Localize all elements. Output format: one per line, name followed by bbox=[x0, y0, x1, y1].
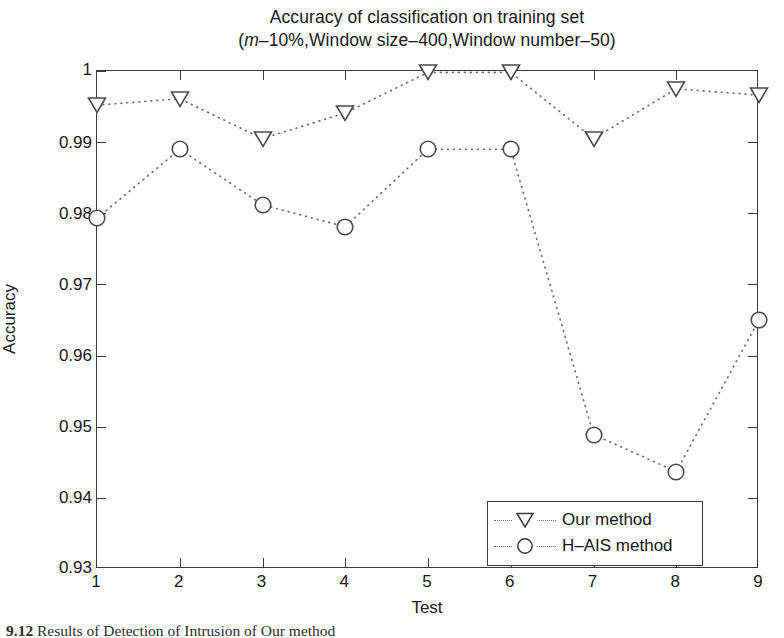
figure-caption-text: Results of Detection of Intrusion of Our… bbox=[37, 622, 335, 638]
series-0-line bbox=[97, 72, 759, 138]
data-point-triangle-down-icon bbox=[335, 103, 356, 122]
data-point-triangle-down-icon bbox=[169, 89, 190, 108]
ytick-label-1: 0.94 bbox=[59, 488, 92, 508]
y-axis-label: Accuracy bbox=[0, 284, 20, 354]
plot-inner: Our method H–AIS method bbox=[97, 71, 757, 567]
xtick-label-2: 2 bbox=[174, 572, 183, 592]
xtick-label-7: 7 bbox=[588, 572, 597, 592]
chart-legend: Our method H–AIS method bbox=[487, 501, 703, 566]
xtick-label-5: 5 bbox=[422, 572, 431, 592]
xtick-label-9: 9 bbox=[753, 572, 762, 592]
data-point-triangle-down-icon bbox=[500, 63, 521, 82]
legend-item-our-method[interactable]: Our method bbox=[488, 507, 702, 533]
data-point-triangle-down-icon bbox=[666, 79, 687, 98]
data-point-circle-icon bbox=[501, 139, 521, 159]
chart-subtitle-params: –10%,Window size–400,Window number–50) bbox=[259, 30, 616, 50]
figure-caption: 9.12 Results of Detection of Intrusion o… bbox=[6, 622, 778, 638]
data-point-circle-icon bbox=[749, 310, 769, 330]
xtick-label-1: 1 bbox=[91, 572, 100, 592]
xtick-label-3: 3 bbox=[257, 572, 266, 592]
figure-accuracy-training-set: Accuracy of classification on training s… bbox=[0, 0, 784, 638]
data-point-triangle-down-icon bbox=[749, 86, 770, 105]
xtick-label-8: 8 bbox=[671, 572, 680, 592]
legend-item-hais-method[interactable]: H–AIS method bbox=[488, 533, 702, 559]
ytick-label-3: 0.96 bbox=[59, 346, 92, 366]
data-point-triangle-down-icon bbox=[583, 129, 604, 148]
data-point-circle-icon bbox=[335, 217, 355, 237]
chart-title-block: Accuracy of classification on training s… bbox=[96, 6, 758, 52]
legend-sample-our-method bbox=[488, 509, 562, 531]
x-axis-label: Test bbox=[96, 598, 758, 618]
data-point-circle-icon bbox=[170, 139, 190, 159]
ytick-label-4: 0.97 bbox=[59, 275, 92, 295]
data-point-triangle-down-icon bbox=[418, 63, 439, 82]
ytick-label-2: 0.95 bbox=[59, 417, 92, 437]
ytick-label-7: 1 bbox=[83, 60, 92, 80]
data-point-triangle-down-icon bbox=[87, 96, 108, 115]
legend-sample-hais-method bbox=[488, 535, 562, 557]
ytick-label-6: 0.99 bbox=[59, 133, 92, 153]
data-point-circle-icon bbox=[87, 208, 107, 228]
chart-subtitle: (m–10%,Window size–400,Window number–50) bbox=[96, 29, 758, 52]
data-point-circle-icon bbox=[666, 462, 686, 482]
ytick-label-0: 0.93 bbox=[59, 558, 92, 578]
data-point-circle-icon bbox=[253, 195, 273, 215]
xtick-label-4: 4 bbox=[340, 572, 349, 592]
chart-title: Accuracy of classification on training s… bbox=[96, 6, 758, 29]
data-point-circle-icon bbox=[418, 139, 438, 159]
legend-label-hais-method: H–AIS method bbox=[562, 536, 673, 556]
data-point-circle-icon bbox=[584, 425, 604, 445]
xtick-label-6: 6 bbox=[505, 572, 514, 592]
chart-subtitle-m-symbol: m bbox=[244, 30, 259, 50]
legend-label-our-method: Our method bbox=[562, 510, 652, 530]
circle-icon bbox=[513, 537, 537, 555]
data-point-triangle-down-icon bbox=[252, 129, 273, 148]
plot-area: Our method H–AIS method bbox=[96, 70, 758, 568]
series-1-line bbox=[97, 149, 759, 471]
triangle-down-icon bbox=[513, 512, 538, 529]
figure-caption-number: 9.12 bbox=[6, 622, 33, 638]
